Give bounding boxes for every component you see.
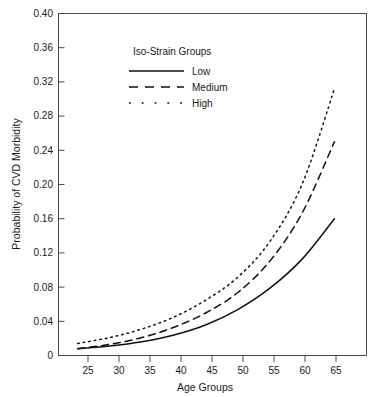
y-axis-ticks xyxy=(59,14,65,356)
series-line-high xyxy=(78,89,335,344)
y-tick-label-036: 0.36 xyxy=(34,42,54,53)
x-axis-title: Age Groups xyxy=(177,381,233,393)
y-tick-label-024: 0.24 xyxy=(34,145,54,156)
legend-label-high: High xyxy=(192,98,213,109)
legend-label-low: Low xyxy=(192,66,211,77)
x-tick-label-50: 50 xyxy=(237,365,249,376)
y-tick-label-028: 0.28 xyxy=(34,110,54,121)
legend: Iso-Strain Groups Low Medium High xyxy=(129,46,228,109)
x-tick-label-65: 65 xyxy=(330,365,342,376)
x-tick-label-30: 30 xyxy=(113,365,125,376)
x-axis-ticks xyxy=(88,356,336,363)
x-tick-label-25: 25 xyxy=(82,365,94,376)
x-tick-label-60: 60 xyxy=(299,365,311,376)
y-tick-label-012: 0.12 xyxy=(34,247,54,258)
series-line-medium xyxy=(78,142,335,349)
y-axis-title: Probability of CVD Morbidity xyxy=(10,118,22,250)
x-tick-label-45: 45 xyxy=(206,365,218,376)
y-tick-label-004: 0.04 xyxy=(34,316,54,327)
y-tick-label-032: 0.32 xyxy=(34,76,54,87)
x-tick-label-35: 35 xyxy=(144,365,156,376)
legend-label-medium: Medium xyxy=(192,82,228,93)
cvd-morbidity-line-chart: 0.40 0.36 0.32 0.28 0.24 0.20 0.16 0.12 … xyxy=(0,0,380,397)
y-tick-label-016: 0.16 xyxy=(34,213,54,224)
y-tick-label-0: 0 xyxy=(47,350,53,361)
legend-title: Iso-Strain Groups xyxy=(133,46,211,57)
chart-page: 0.40 0.36 0.32 0.28 0.24 0.20 0.16 0.12 … xyxy=(0,0,380,397)
series-line-low xyxy=(78,219,335,349)
x-tick-label-55: 55 xyxy=(268,365,280,376)
y-tick-label-008: 0.08 xyxy=(34,282,54,293)
plot-frame xyxy=(59,14,367,356)
series-group xyxy=(78,89,335,349)
y-tick-label-040: 0.40 xyxy=(34,8,54,19)
y-tick-label-020: 0.20 xyxy=(34,179,54,190)
x-tick-label-40: 40 xyxy=(175,365,187,376)
